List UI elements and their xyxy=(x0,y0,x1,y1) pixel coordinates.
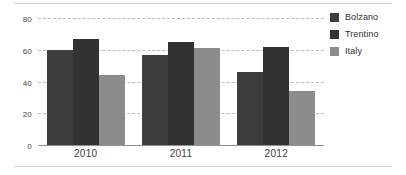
gridline-0: 0 xyxy=(38,145,324,146)
x-axis-labels: 201020112012 xyxy=(38,148,324,159)
bar-chart-figure: Bolzano Trentino Italy 020406080 2010201… xyxy=(0,0,406,175)
y-axis-tick-label-20: 20 xyxy=(23,110,32,119)
bar-group-2010 xyxy=(47,18,125,145)
bar-italy-2011[interactable] xyxy=(194,48,220,145)
bar-trentino-2011[interactable] xyxy=(168,42,194,145)
x-axis-label-2012: 2012 xyxy=(237,148,315,159)
legend-swatch-icon-italy xyxy=(330,47,339,56)
legend-label-trentino: Trentino xyxy=(345,29,378,39)
x-axis-label-2010: 2010 xyxy=(47,148,125,159)
legend-swatch-icon-trentino xyxy=(330,30,339,39)
y-axis-tick-label-80: 80 xyxy=(23,15,32,24)
y-axis-tick-label-40: 40 xyxy=(23,78,32,87)
bar-italy-2010[interactable] xyxy=(99,75,125,145)
bar-group-2012 xyxy=(237,18,315,145)
bar-bolzano-2010[interactable] xyxy=(47,50,73,145)
bar-bolzano-2011[interactable] xyxy=(142,55,168,145)
legend-label-bolzano: Bolzano xyxy=(345,12,378,22)
bar-group-2011 xyxy=(142,18,220,145)
y-axis-tick-label-60: 60 xyxy=(23,46,32,55)
figure-top-rule xyxy=(14,3,392,4)
x-axis-label-2011: 2011 xyxy=(142,148,220,159)
bar-trentino-2010[interactable] xyxy=(73,39,99,145)
figure-bottom-rule xyxy=(14,166,392,167)
bar-trentino-2012[interactable] xyxy=(263,47,289,145)
bars-layer xyxy=(38,18,324,145)
legend-label-italy: Italy xyxy=(345,46,362,56)
chart-legend: Bolzano Trentino Italy xyxy=(330,12,378,56)
legend-item-trentino[interactable]: Trentino xyxy=(330,29,378,39)
legend-item-italy[interactable]: Italy xyxy=(330,46,378,56)
bar-bolzano-2012[interactable] xyxy=(237,72,263,145)
legend-swatch-icon-bolzano xyxy=(330,13,339,22)
plot-area: 020406080 xyxy=(38,18,324,145)
y-axis-tick-label-0: 0 xyxy=(27,142,32,151)
bar-italy-2012[interactable] xyxy=(289,91,315,145)
legend-item-bolzano[interactable]: Bolzano xyxy=(330,12,378,22)
